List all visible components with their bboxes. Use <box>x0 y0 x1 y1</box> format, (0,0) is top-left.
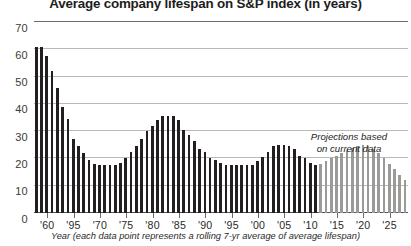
bar <box>356 146 359 213</box>
bar <box>219 163 222 213</box>
bar <box>383 158 386 213</box>
x-axis-tickmark-2000 <box>258 213 259 218</box>
bar <box>204 152 207 213</box>
bar <box>67 119 70 213</box>
bar <box>240 165 243 213</box>
bar <box>304 158 307 213</box>
bar <box>35 47 38 213</box>
bar <box>267 152 270 213</box>
bar <box>288 146 291 213</box>
bars-group <box>34 22 408 213</box>
x-axis-tickmark-2020 <box>363 213 364 218</box>
x-axis-tickmark-2005 <box>284 213 285 218</box>
bar <box>251 165 254 213</box>
bar <box>98 165 101 213</box>
bar <box>146 131 149 213</box>
bar <box>256 161 259 213</box>
bar <box>161 116 164 213</box>
x-axis-tick-label-1975: '75 <box>119 219 133 231</box>
x-axis-tick-label-1995: '95 <box>224 219 238 231</box>
bar <box>404 180 407 213</box>
y-axis-tick-label-50: 50 <box>15 76 28 77</box>
bar <box>272 146 275 213</box>
x-axis-tick-label-2015: '15 <box>330 219 344 231</box>
bar <box>93 164 96 213</box>
bar <box>172 116 175 213</box>
bar <box>346 150 349 213</box>
x-axis-tick-label-1965: '95 <box>66 219 80 231</box>
bar <box>72 139 75 213</box>
bar <box>362 145 365 213</box>
bar <box>140 139 143 213</box>
x-axis-tickmark-2025 <box>390 213 391 218</box>
bar <box>45 56 48 213</box>
bar <box>135 146 138 213</box>
x-axis-tick-label-1970: '70 <box>93 219 107 231</box>
plot-area: 010203040506070 <box>34 22 408 213</box>
bar <box>277 145 280 213</box>
x-axis-tick-label-2000: '00 <box>251 219 265 231</box>
bar <box>109 165 112 213</box>
x-axis-tickmark-1980 <box>153 213 154 218</box>
x-axis-tickmark-1975 <box>126 213 127 218</box>
bar <box>56 88 59 214</box>
x-axis-tickmark-2010 <box>311 213 312 218</box>
bar <box>398 175 401 213</box>
bar <box>230 165 233 213</box>
y-axis-tick-label-30: 30 <box>15 130 28 131</box>
bar <box>367 146 370 213</box>
bar <box>293 149 296 213</box>
bar <box>77 146 80 213</box>
bar <box>51 71 54 213</box>
bar <box>235 165 238 213</box>
bar <box>188 135 191 213</box>
y-axis-tick-label-10: 10 <box>15 185 28 186</box>
bar <box>225 165 228 213</box>
bar <box>246 165 249 213</box>
bar <box>214 160 217 213</box>
x-axis-tick-label-2005: '05 <box>277 219 291 231</box>
bar <box>130 152 133 213</box>
x-axis-tick-label-1960: '60 <box>40 219 54 231</box>
bar <box>388 164 391 213</box>
bar <box>209 158 212 213</box>
bar <box>351 148 354 213</box>
bar <box>198 149 201 213</box>
y-axis-tick-label-60: 60 <box>15 49 28 50</box>
y-axis-tick-label-20: 20 <box>15 158 28 159</box>
bar <box>193 141 196 213</box>
bar <box>325 161 328 213</box>
projection-annotation-line1: Projections based <box>293 131 405 143</box>
bar <box>335 156 338 213</box>
x-axis-tick-label-2010: '10 <box>303 219 317 231</box>
x-axis-tick-label-1985: '85 <box>172 219 186 231</box>
bar <box>372 149 375 213</box>
bar <box>261 157 264 213</box>
projection-annotation-line2: on current data <box>293 143 405 155</box>
bar <box>151 126 154 213</box>
bar <box>314 165 317 213</box>
bar <box>298 156 301 213</box>
x-axis-tickmark-1990 <box>205 213 206 218</box>
bar <box>103 165 106 213</box>
x-axis-tick-label-2020: '20 <box>356 219 370 231</box>
bar <box>177 120 180 213</box>
x-axis-tick-label-1990: '90 <box>198 219 212 231</box>
projection-annotation: Projections based on current data <box>293 131 405 154</box>
bar <box>114 165 117 213</box>
bar <box>156 120 159 213</box>
x-axis-caption: Year (each data point represents a rolli… <box>0 231 411 241</box>
bar <box>309 163 312 213</box>
bar <box>167 116 170 213</box>
y-axis-tick-label-40: 40 <box>15 103 28 104</box>
bar <box>61 107 64 213</box>
bar <box>82 153 85 213</box>
x-axis-tickmark-1960 <box>47 213 48 218</box>
bar <box>119 163 122 213</box>
y-axis-tick-label-0: 0 <box>22 212 28 213</box>
x-axis-tickmark-1970 <box>100 213 101 218</box>
bar <box>319 164 322 213</box>
chart-container: Average company lifespan on S&P index (i… <box>0 0 411 246</box>
x-axis-tickmark-1985 <box>179 213 180 218</box>
bar <box>283 145 286 213</box>
